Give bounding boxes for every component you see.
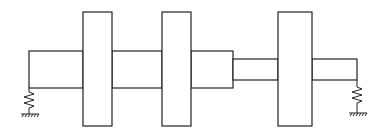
shaft-segment-2 (112, 51, 162, 88)
shaft-segment-3 (191, 51, 233, 88)
shaft-segment-4 (233, 59, 278, 80)
rotor-shaft-diagram (0, 0, 386, 136)
shaft-segment-5 (312, 59, 357, 80)
left-spring-support (21, 88, 39, 117)
left-spring-icon (24, 88, 34, 114)
right-spring-support (349, 80, 367, 116)
right-spring-icon (352, 80, 362, 113)
disk-3 (278, 12, 312, 126)
shaft-segment-1 (29, 51, 83, 88)
disk-1 (83, 12, 112, 126)
disk-2 (162, 12, 191, 126)
